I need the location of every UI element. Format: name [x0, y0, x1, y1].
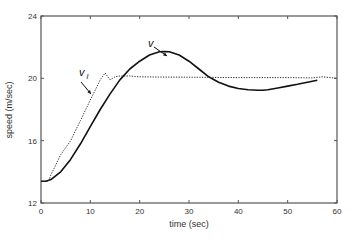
y-tick-label: 16: [28, 137, 37, 146]
plot-frame: [41, 16, 337, 203]
y-tick-label: 12: [28, 199, 37, 208]
x-tick-label: 60: [333, 207, 342, 216]
annotation-vl: vl: [79, 66, 89, 81]
y-tick-label: 24: [28, 12, 37, 21]
annotations: v vl: [79, 37, 167, 94]
x-tick-label: 40: [234, 207, 243, 216]
y-axis-label: speed (m/sec): [4, 81, 14, 138]
x-axis-label: time (sec): [169, 219, 209, 229]
chart-canvas: 010203040506012162024 time (sec) speed (…: [0, 0, 356, 240]
x-tick-label: 50: [283, 207, 292, 216]
y-tick-label: 20: [28, 74, 37, 83]
plot-axes: [41, 16, 337, 203]
series-v-l: [41, 73, 337, 181]
x-tick-label: 0: [39, 207, 44, 216]
x-tick-label: 20: [135, 207, 144, 216]
tick-labels: 010203040506012162024: [28, 12, 342, 216]
x-tick-label: 10: [86, 207, 95, 216]
plot-series: [41, 52, 337, 182]
x-tick-label: 30: [185, 207, 194, 216]
